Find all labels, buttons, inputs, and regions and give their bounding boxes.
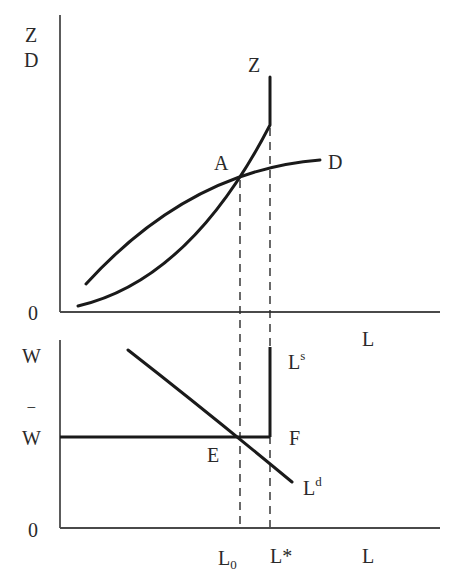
labor-market-diagram: Z D 0 L Z D A W ‾ W 0 Ls Ld E F L0 L: [0, 0, 456, 578]
z-curve-label: Z: [248, 54, 260, 76]
d-curve-label: D: [328, 151, 342, 173]
bottom-panel: W ‾ W 0 Ls Ld E F L0 L* L: [22, 340, 440, 572]
tick-lstar-label: L*: [270, 545, 292, 567]
tick-l0-label: L0: [218, 547, 237, 572]
top-panel: Z D 0 L Z D A: [24, 15, 440, 350]
wage-floor-bar: ‾: [27, 406, 36, 428]
labor-demand-label: Ld: [303, 474, 322, 499]
z-curve: [78, 77, 270, 306]
top-y-label-d: D: [24, 49, 38, 71]
point-e-label: E: [207, 444, 219, 466]
point-f-label: F: [289, 427, 300, 449]
bottom-origin-label: 0: [28, 519, 38, 541]
top-x-label: L: [362, 328, 374, 350]
top-y-label-z: Z: [25, 24, 37, 46]
point-a-label: A: [214, 152, 229, 174]
d-curve: [86, 160, 320, 284]
bottom-y-label-w: W: [22, 345, 41, 367]
labor-supply-label: Ls: [288, 348, 305, 373]
top-origin-label: 0: [28, 302, 38, 324]
wage-floor-label: W: [22, 427, 41, 449]
bottom-x-label: L: [362, 545, 374, 567]
